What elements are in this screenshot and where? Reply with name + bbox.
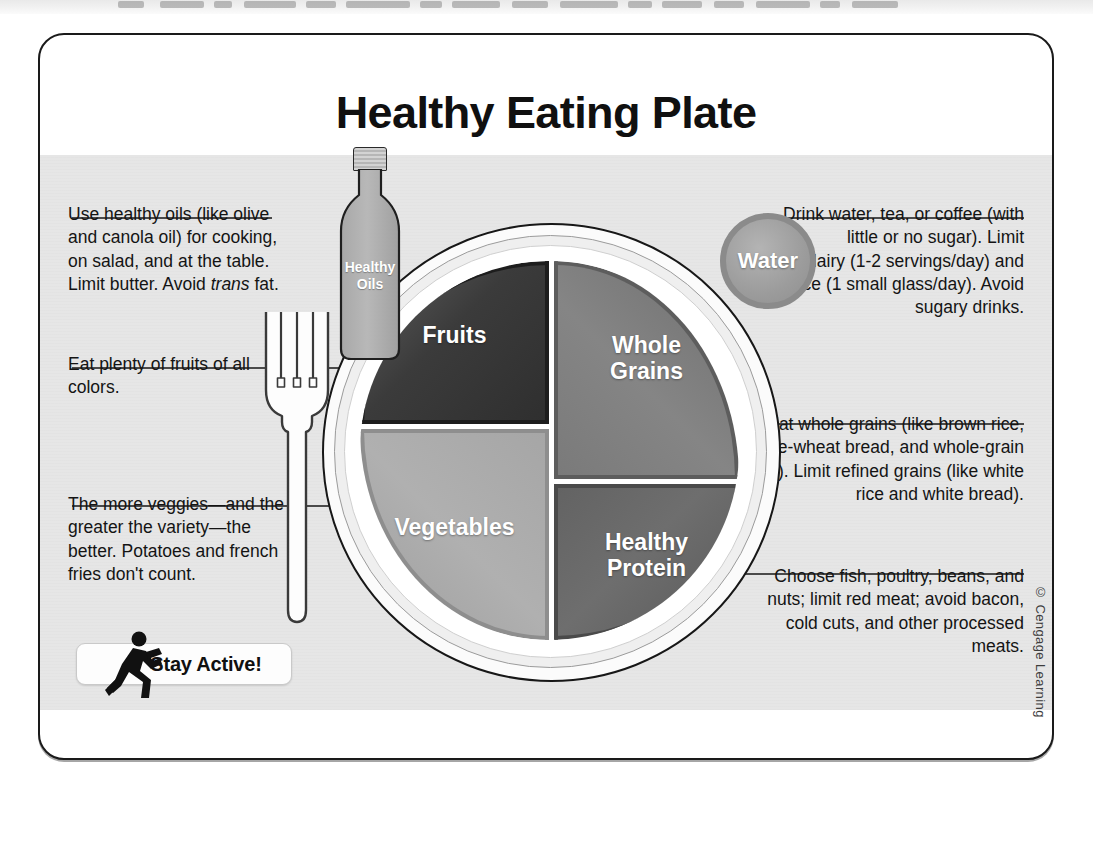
copyright-notice: © Cengage Learning — [1033, 585, 1048, 718]
plate-inner-disc: Fruits Vegetables Whole Grains Healthy P… — [360, 261, 739, 640]
callout-protein-text: Choose fish, poultry, beans, and nuts; l… — [755, 557, 1024, 658]
plate-segment-protein-label-line1: Healthy — [554, 530, 739, 556]
callout-fruits-text: Eat plenty of fruits of all colors. — [68, 345, 294, 400]
healthy-oils-label-line1: Healthy — [339, 259, 401, 276]
plate-segment-protein-label-line2: Protein — [554, 556, 739, 582]
plate-segment-healthy-protein[interactable]: Healthy Protein — [554, 484, 739, 640]
figure-frame: Healthy Eating Plate Use healthy oils (l… — [38, 33, 1054, 760]
callout-oils-text-post: fat. — [250, 274, 279, 294]
running-person-icon — [99, 630, 169, 702]
callout-fruits: Eat plenty of fruits of all colors. — [68, 345, 294, 400]
stay-active-badge[interactable]: Stay Active! — [76, 643, 292, 685]
page-title: Healthy Eating Plate — [40, 87, 1052, 139]
water-label: Water — [738, 248, 798, 274]
healthy-oils-bottle-icon[interactable]: Healthy Oils — [339, 147, 401, 361]
plate-segment-grains-label-line2: Grains — [554, 359, 739, 385]
callout-healthy-protein: Choose fish, poultry, beans, and nuts; l… — [755, 557, 1024, 658]
callout-vegetables-text: The more veggies—and the greater the var… — [68, 485, 294, 586]
bottle-cap-icon — [353, 147, 387, 171]
callout-vegetables: The more veggies—and the greater the var… — [68, 485, 294, 586]
plate-segment-vegetables[interactable]: Vegetables — [360, 429, 549, 640]
healthy-oils-label-line2: Oils — [339, 276, 401, 293]
callout-oils-emphasis: trans — [211, 274, 250, 294]
fork-icon — [262, 310, 332, 625]
plate-segment-vegetables-label: Vegetables — [360, 515, 549, 541]
plate-segment-protein-label: Healthy Protein — [554, 530, 739, 582]
plate-segment-whole-grains[interactable]: Whole Grains — [554, 261, 739, 479]
healthy-oils-label: Healthy Oils — [339, 259, 401, 293]
page-bleed-artifact — [0, 0, 1093, 14]
callout-healthy-oils: Use healthy oils (like olive and canola … — [68, 195, 294, 296]
plate-segment-grains-label-line1: Whole — [554, 333, 739, 359]
plate-segment-grains-label: Whole Grains — [554, 333, 739, 385]
water-circle[interactable]: Water — [720, 213, 816, 309]
